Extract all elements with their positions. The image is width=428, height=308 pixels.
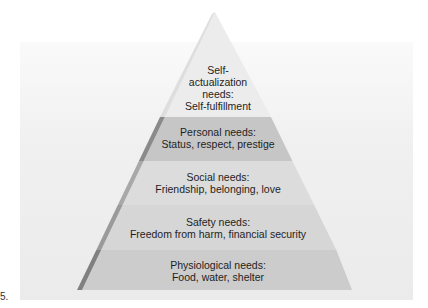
label-self-actualization: Self- actualization needs: Self-fulfillm… xyxy=(165,64,271,112)
label-line: Food, water, shelter xyxy=(110,271,326,283)
label-line: Friendship, belonging, love xyxy=(130,183,306,195)
label-line: Personal needs: xyxy=(150,126,286,138)
figure-number: 5. xyxy=(0,291,8,302)
label-social: Social needs: Friendship, belonging, lov… xyxy=(130,171,306,195)
label-line: actualization xyxy=(165,76,271,88)
label-line: Freedom from harm, financial security xyxy=(110,228,326,240)
label-line: needs: xyxy=(165,88,271,100)
label-line: Status, respect, prestige xyxy=(150,138,286,150)
label-line: Safety needs: xyxy=(110,216,326,228)
label-line: Self- xyxy=(165,64,271,76)
label-line: Self-fulfillment xyxy=(165,100,271,112)
label-safety: Safety needs: Freedom from harm, financi… xyxy=(110,216,326,240)
label-line: Physiological needs: xyxy=(110,259,326,271)
label-line: Social needs: xyxy=(130,171,306,183)
label-physiological: Physiological needs: Food, water, shelte… xyxy=(110,259,326,283)
label-personal: Personal needs: Status, respect, prestig… xyxy=(150,126,286,150)
